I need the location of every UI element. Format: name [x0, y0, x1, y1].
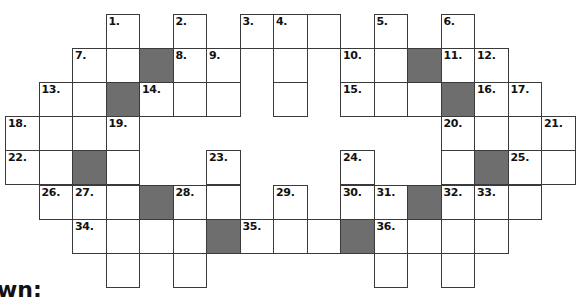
crossword-cell-21[interactable]: 21.: [541, 116, 576, 151]
crossword-cell-26[interactable]: 26.: [39, 185, 74, 220]
crossword-cell-27[interactable]: 27.: [72, 185, 107, 220]
crossword-cell[interactable]: [508, 116, 543, 151]
crossword-cell-14[interactable]: 14.: [139, 82, 174, 117]
crossword-cell[interactable]: [374, 82, 409, 117]
crossword-cell-1[interactable]: 1.: [106, 14, 141, 49]
crossword-cell[interactable]: [273, 48, 308, 83]
crossword-cell-9[interactable]: 9.: [206, 48, 241, 83]
crossword-cell-24[interactable]: 24.: [340, 150, 375, 185]
crossword-cell[interactable]: [106, 150, 141, 185]
crossword-cell[interactable]: [474, 116, 509, 151]
crossword-block-cell: [441, 82, 476, 117]
clue-number: 30.: [343, 186, 362, 199]
crossword-cell[interactable]: [106, 253, 141, 288]
clue-number: 13.: [42, 83, 61, 96]
crossword-block-cell: [72, 150, 107, 185]
crossword-cell[interactable]: [206, 82, 241, 117]
clue-number: 28.: [176, 186, 195, 199]
clue-number: 20.: [444, 117, 463, 130]
clue-number: 26.: [42, 186, 61, 199]
clue-number: 22.: [8, 151, 27, 164]
crossword-cell-10[interactable]: 10.: [340, 48, 375, 83]
clues-section-heading: wn:: [0, 277, 42, 299]
crossword-cell[interactable]: [273, 219, 308, 254]
crossword-cell-31[interactable]: 31.: [374, 185, 409, 220]
clue-number: 1.: [109, 15, 120, 28]
crossword-cell[interactable]: [106, 219, 141, 254]
crossword-cell[interactable]: [139, 219, 174, 254]
crossword-cell-28[interactable]: 28.: [173, 185, 208, 220]
crossword-cell[interactable]: [407, 82, 442, 117]
crossword-cell-19[interactable]: 19.: [106, 116, 141, 151]
clue-number: 31.: [377, 186, 396, 199]
crossword-cell-13[interactable]: 13.: [39, 82, 74, 117]
crossword-cell[interactable]: [307, 14, 342, 49]
crossword-cell[interactable]: [441, 150, 476, 185]
crossword-block-cell: [206, 219, 241, 254]
clue-number: 6.: [444, 15, 455, 28]
crossword-cell[interactable]: [407, 219, 442, 254]
crossword-cell[interactable]: [474, 219, 509, 254]
clue-number: 27.: [75, 186, 94, 199]
clue-number: 35.: [243, 220, 262, 233]
crossword-cell-8[interactable]: 8.: [173, 48, 208, 83]
clue-number: 11.: [444, 49, 463, 62]
clue-number: 23.: [209, 151, 228, 164]
crossword-cell-23[interactable]: 23.: [206, 150, 241, 185]
crossword-cell[interactable]: [39, 116, 74, 151]
crossword-cell[interactable]: [173, 82, 208, 117]
crossword-cell-33[interactable]: 33.: [474, 185, 509, 220]
crossword-grid: 1.2.3.4.5.6.7.8.9.10.11.12.13.14.15.16.1…: [0, 0, 578, 299]
crossword-cell[interactable]: [173, 219, 208, 254]
crossword-cell-22[interactable]: 22.: [5, 150, 40, 185]
crossword-cell-7[interactable]: 7.: [72, 48, 107, 83]
clue-number: 7.: [75, 49, 86, 62]
clue-number: 32.: [444, 186, 463, 199]
clue-number: 15.: [343, 83, 362, 96]
crossword-cell-20[interactable]: 20.: [441, 116, 476, 151]
crossword-cell-11[interactable]: 11.: [441, 48, 476, 83]
clue-number: 25.: [511, 151, 530, 164]
crossword-cell-16[interactable]: 16.: [474, 82, 509, 117]
crossword-cell[interactable]: [72, 116, 107, 151]
crossword-cell-3[interactable]: 3.: [240, 14, 275, 49]
clue-number: 2.: [176, 15, 187, 28]
crossword-cell-4[interactable]: 4.: [273, 14, 308, 49]
crossword-cell-2[interactable]: 2.: [173, 14, 208, 49]
crossword-cell[interactable]: [39, 150, 74, 185]
crossword-cell[interactable]: [206, 185, 241, 220]
clue-number: 8.: [176, 49, 187, 62]
crossword-block-cell: [106, 82, 141, 117]
crossword-cell-18[interactable]: 18.: [5, 116, 40, 151]
crossword-block-cell: [340, 219, 375, 254]
crossword-cell-36[interactable]: 36.: [374, 219, 409, 254]
crossword-cell[interactable]: [374, 253, 409, 288]
crossword-block-cell: [474, 150, 509, 185]
crossword-cell[interactable]: [508, 185, 543, 220]
clue-number: 21.: [544, 117, 563, 130]
crossword-cell-34[interactable]: 34.: [72, 219, 107, 254]
clue-number: 12.: [477, 49, 496, 62]
crossword-cell-5[interactable]: 5.: [374, 14, 409, 49]
crossword-cell[interactable]: [541, 150, 576, 185]
crossword-block-cell: [407, 185, 442, 220]
crossword-cell[interactable]: [441, 253, 476, 288]
crossword-cell[interactable]: [173, 253, 208, 288]
crossword-cell-6[interactable]: 6.: [441, 14, 476, 49]
crossword-cell-15[interactable]: 15.: [340, 82, 375, 117]
crossword-cell-12[interactable]: 12.: [474, 48, 509, 83]
crossword-cell-35[interactable]: 35.: [240, 219, 275, 254]
crossword-cell-32[interactable]: 32.: [441, 185, 476, 220]
crossword-cell-25[interactable]: 25.: [508, 150, 543, 185]
crossword-cell[interactable]: [374, 48, 409, 83]
crossword-cell-30[interactable]: 30.: [340, 185, 375, 220]
crossword-cell[interactable]: [72, 82, 107, 117]
crossword-cell[interactable]: [106, 48, 141, 83]
crossword-cell[interactable]: [307, 219, 342, 254]
crossword-cell[interactable]: [106, 185, 141, 220]
crossword-cell-17[interactable]: 17.: [508, 82, 543, 117]
crossword-cell[interactable]: [273, 82, 308, 117]
crossword-cell-29[interactable]: 29.: [273, 185, 308, 220]
clue-number: 5.: [377, 15, 388, 28]
crossword-cell[interactable]: [441, 219, 476, 254]
